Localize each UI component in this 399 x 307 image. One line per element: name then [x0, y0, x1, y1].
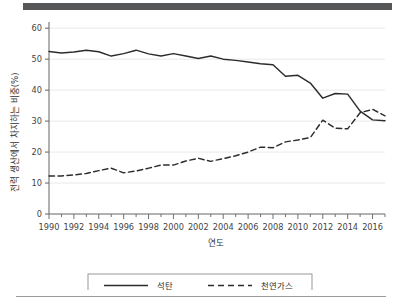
y-tick-label: 50 [32, 54, 42, 64]
x-tick-label: 2016 [362, 222, 383, 232]
x-tick-label: 1998 [138, 222, 159, 232]
y-tick-label: 30 [32, 116, 42, 126]
x-tick-label: 2004 [213, 222, 234, 232]
y-tick-label: 60 [32, 23, 42, 33]
legend-label-coal: 석탄 [157, 281, 173, 290]
y-tick-label: 20 [32, 147, 42, 157]
y-tick-label: 0 [37, 209, 42, 219]
x-tick-label: 1990 [39, 222, 60, 232]
top-divider-bar [23, 3, 392, 10]
chart-figure: 0102030405060 19901992199419961998200020… [0, 12, 399, 290]
x-axis-title: 연도 [208, 238, 224, 248]
bottom-divider-rule [16, 296, 386, 297]
x-tick-label: 1992 [63, 222, 84, 232]
axes [49, 22, 385, 214]
y-tick-label: 10 [32, 178, 42, 188]
x-tick-label: 2008 [263, 222, 284, 232]
legend-label-gas: 천연가스 [261, 281, 293, 290]
y-axis-title: 전력 생산에서 차지하는 비중(%) [9, 72, 20, 191]
x-tick-label: 1996 [113, 222, 134, 232]
x-tick-label: 2000 [163, 222, 184, 232]
chart-legend: 석탄 천연가스 [88, 274, 312, 290]
data-series [49, 50, 385, 176]
x-axis-ticks: 1990199219941996199820002002200420062008… [39, 214, 385, 232]
y-axis-ticks: 0102030405060 [32, 23, 49, 219]
x-tick-label: 2010 [287, 222, 308, 232]
line-chart: 0102030405060 19901992199419961998200020… [0, 12, 399, 290]
x-tick-label: 2014 [337, 222, 358, 232]
gridlines [49, 28, 385, 214]
x-tick-label: 1994 [88, 222, 109, 232]
series-line-coal [49, 50, 385, 121]
y-tick-label: 40 [32, 85, 42, 95]
x-tick-label: 2002 [188, 222, 209, 232]
x-tick-label: 2006 [238, 222, 259, 232]
series-line-gas [49, 109, 385, 176]
x-tick-label: 2012 [312, 222, 333, 232]
